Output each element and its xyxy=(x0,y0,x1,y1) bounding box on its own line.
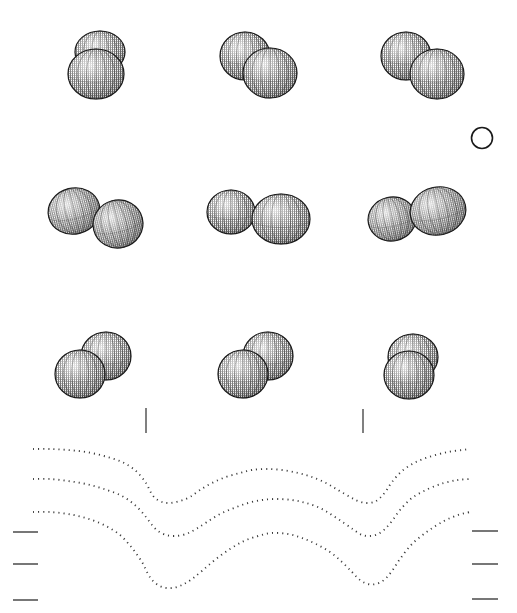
sphere xyxy=(55,350,105,398)
sphere xyxy=(252,194,310,244)
sphere-pair xyxy=(384,334,438,399)
sphere xyxy=(243,48,297,98)
sphere xyxy=(207,190,255,234)
sphere xyxy=(68,49,124,99)
sphere xyxy=(410,49,464,99)
figure-canvas xyxy=(0,0,517,613)
sphere xyxy=(384,351,434,399)
scientific-figure: Three dotted double-well (W shaped) curv… xyxy=(0,0,517,613)
sphere xyxy=(218,350,268,398)
